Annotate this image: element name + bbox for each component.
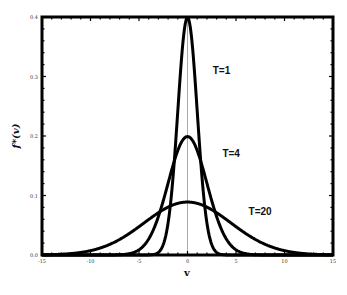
curve-labels: T=1T=4T=20 [213,65,272,217]
curve-label: T=1 [213,65,231,76]
x-tick-label: 10 [281,258,287,264]
x-tick-label: -5 [137,258,142,264]
x-tick-label: 15 [330,258,336,264]
chart: -15-10-5051015 0.00.10.20.30.4 T=1T=4T=2… [0,0,347,295]
y-axis-title: f*(v) [10,123,21,149]
x-tick-label: -10 [86,258,94,264]
x-tick-label: -15 [38,258,46,264]
y-tick-labels: 0.00.10.20.30.4 [30,14,38,258]
curve-label: T=20 [249,206,273,217]
x-tick-labels: -15-10-5051015 [38,258,336,264]
x-tick-label: 5 [234,258,237,264]
x-tick-label: 0 [186,258,189,264]
x-axis-title: v [183,267,191,278]
y-tick-label: 0.3 [30,74,38,80]
curve-label: T=4 [222,148,240,159]
y-tick-label: 0.1 [30,193,38,199]
y-tick-label: 0.0 [30,252,38,258]
y-tick-label: 0.2 [30,133,38,139]
y-tick-label: 0.4 [30,14,38,20]
